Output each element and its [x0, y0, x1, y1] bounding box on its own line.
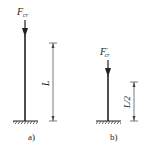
- panel-a: Fcr L a): [13, 6, 57, 142]
- length-label-b: L/2: [122, 95, 132, 109]
- ground-hatch-a: [13, 121, 38, 124]
- force-label-b: F′cr: [99, 46, 110, 58]
- caption-b: b): [110, 132, 118, 142]
- caption-a: a): [28, 132, 35, 142]
- panel-b: F′cr L/2 b): [96, 46, 138, 142]
- buckling-diagram: Fcr L a) F′cr L/2 b): [0, 0, 144, 152]
- length-label-a: L: [40, 80, 51, 87]
- force-label-a: Fcr: [16, 6, 29, 18]
- ground-hatch-b: [96, 121, 121, 124]
